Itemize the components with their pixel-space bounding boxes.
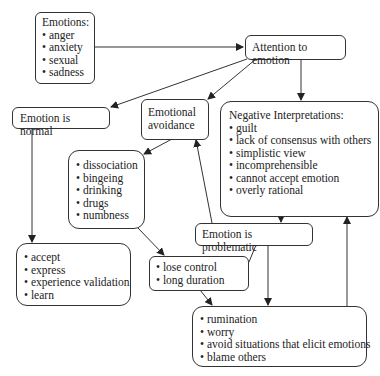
outcome-item: accept [24, 251, 123, 264]
edge-consequences-coping [200, 290, 212, 305]
emotion-item: anger [42, 29, 88, 42]
edge-attention-avoidance [208, 59, 256, 99]
coping-item: avoid situations that elicit emotions [200, 338, 359, 351]
behavior-item: drugs [76, 197, 137, 210]
emotions-node: Emotions: anger anxiety sexual sadness [35, 12, 95, 84]
consequence-item: lose control [156, 261, 242, 274]
negative-item: guilt [229, 122, 370, 135]
avoidance-behaviors-node: dissociation bingeing drinking drugs num… [68, 150, 145, 229]
negative-title: Negative Interpretations: [229, 109, 370, 122]
behavior-item: bingeing [76, 172, 137, 185]
outcome-item: experience validation [24, 276, 123, 289]
emotion-item: sadness [42, 66, 88, 79]
avoidance-line1: Emotional [148, 106, 202, 119]
negative-item: incomprehensible [229, 159, 370, 172]
problematic-node: Emotion is problematic [195, 223, 313, 246]
normal-node: Emotion is normal [12, 107, 110, 129]
emotions-title: Emotions: [42, 16, 88, 29]
coping-item: rumination [200, 313, 359, 326]
avoidance-line2: avoidance [148, 119, 202, 132]
behavior-item: dissociation [76, 159, 137, 172]
normal-outcomes-node: accept express experience validation lea… [16, 243, 131, 306]
negative-interpretations-node: Negative Interpretations: guilt lack of … [220, 101, 379, 217]
consequences-node: lose control long duration [149, 256, 249, 291]
behavior-item: numbness [76, 209, 137, 222]
consequence-item: long duration [156, 274, 242, 287]
avoidance-node: Emotional avoidance [141, 99, 209, 140]
edge-avoidance-behaviors [144, 139, 172, 154]
outcome-item: learn [24, 289, 123, 302]
negative-item: lack of consensus with others [229, 134, 370, 147]
emotion-item: anxiety [42, 41, 88, 54]
problematic-label: Emotion is problematic [202, 228, 257, 253]
behavior-item: drinking [76, 184, 137, 197]
attention-node: Attention to emotion [245, 35, 346, 60]
negative-item: simplistic view [229, 147, 370, 160]
coping-item: worry [200, 326, 359, 339]
negative-item: overly rational [229, 184, 370, 197]
coping-node: rumination worry avoid situations that e… [192, 306, 367, 367]
edge-behaviors-consequences [138, 228, 164, 255]
outcome-item: express [24, 264, 123, 277]
coping-item: blame others [200, 351, 359, 364]
emotion-item: sexual [42, 54, 88, 67]
negative-item: cannot accept emotion [229, 172, 370, 185]
edge-problematic-avoidance [196, 140, 212, 223]
